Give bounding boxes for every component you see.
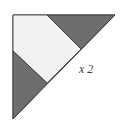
quantity-label: x 2 bbox=[79, 62, 93, 77]
quilt-triangle-diagram bbox=[0, 0, 121, 136]
